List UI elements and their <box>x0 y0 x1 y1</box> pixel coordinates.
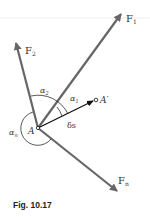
label-fn: Fn <box>118 175 129 187</box>
vector-f1 <box>38 14 121 128</box>
arc-alpha1 <box>57 107 62 116</box>
label-displacement: δs <box>67 121 76 130</box>
label-alpha2: α2 <box>40 86 49 96</box>
point-a-prime-marker <box>94 98 98 102</box>
diagram-svg: F1 F2 Fn A′ A δs α1 α2 αn Fig. 10.17 <box>0 0 150 217</box>
label-alpha1: α1 <box>70 94 79 104</box>
label-a: A <box>27 126 35 136</box>
point-a-marker <box>36 126 39 129</box>
virtual-work-diagram: F1 F2 Fn A′ A δs α1 α2 αn Fig. 10.17 <box>0 0 150 217</box>
figure-caption: Fig. 10.17 <box>13 200 52 210</box>
displacement-vector <box>38 101 93 128</box>
label-a-prime: A′ <box>99 95 109 105</box>
label-f2: F2 <box>25 45 36 57</box>
vector-fn <box>38 128 117 191</box>
label-alphan: αn <box>9 128 18 138</box>
label-f1: F1 <box>126 13 137 25</box>
